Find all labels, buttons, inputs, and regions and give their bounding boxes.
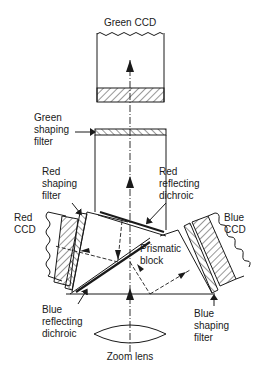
blue-ccd-label: Blue CCD — [224, 212, 247, 235]
blue-light-path — [130, 262, 190, 294]
blue-reflecting-dichroic-label: Blue reflecting dichroic — [42, 304, 85, 339]
red-ccd-label: Red CCD — [14, 212, 36, 235]
red-reflecting-dichroic-label: Red reflecting dichroic — [159, 166, 202, 201]
green-shaping-filter — [95, 129, 166, 135]
green-ccd-label: Green CCD — [104, 17, 156, 28]
blue-shaping-filter-label: Blue shaping filter — [194, 308, 232, 343]
green-path-arrow — [126, 176, 134, 188]
red-filter-pointer — [72, 203, 80, 213]
optical-diagram: Green CCD Green shaping filter Red refle… — [0, 0, 256, 367]
prismatic-block-label: Prismatic block — [140, 243, 184, 266]
green-ccd-arrow — [126, 60, 134, 72]
red-shaping-filter-label: Red shaping filter — [42, 166, 80, 201]
red-dichroic-pointer — [148, 203, 166, 222]
green-shaping-filter-label: Green shaping filter — [34, 112, 72, 147]
blue-dichroic-pointer — [78, 291, 86, 304]
red-reflecting-dichroic — [98, 212, 166, 236]
zoom-lens-label: Zoom lens — [107, 351, 154, 362]
